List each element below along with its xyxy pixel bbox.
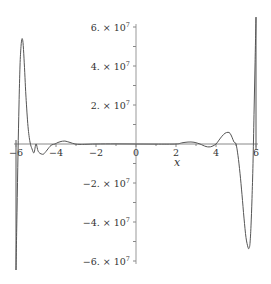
y-tick-label: 2. × 107 <box>91 99 130 111</box>
y-tick-label: 6. × 107 <box>91 21 130 33</box>
x-tick-label: 4 <box>213 147 219 158</box>
x-tick-label: −6 <box>9 147 23 158</box>
y-tick-label: 4. × 107 <box>91 60 130 72</box>
chart: −6−4−20246−6. × 107−4. × 107−2. × 1072. … <box>0 0 271 284</box>
x-axis-label: x <box>174 156 181 169</box>
y-tick-label: −4. × 107 <box>83 216 130 228</box>
x-tick-label: −2 <box>89 147 103 158</box>
x-tick-label: −4 <box>49 147 63 158</box>
y-tick-label: −2. × 107 <box>83 177 130 189</box>
x-tick-label: 0 <box>133 147 139 158</box>
y-tick-label: −6. × 107 <box>83 255 130 267</box>
x-tick-label: 6 <box>253 147 259 158</box>
